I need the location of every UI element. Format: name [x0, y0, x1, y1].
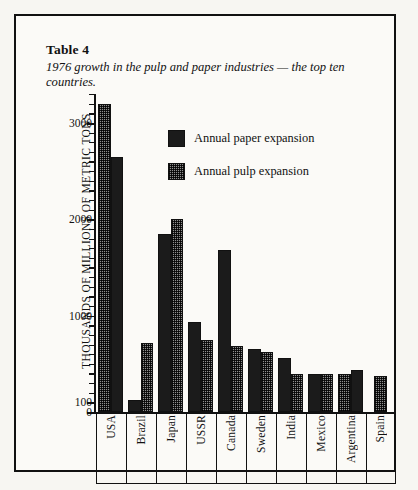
bar-chart: THOUSANDS OF MILLIONS OF METRIC TONS 300…: [38, 88, 406, 488]
bar-group: [186, 94, 216, 412]
y-tick: [89, 364, 94, 365]
y-tick: [89, 181, 94, 182]
bar-group: [126, 94, 156, 412]
bar-pulp-ussr: [201, 340, 213, 412]
bar-group: [366, 94, 396, 412]
bar-paper-mexico: [308, 374, 320, 412]
y-axis-title: THOUSANDS OF MILLIONS OF METRIC TONS: [80, 119, 92, 369]
y-tick: [89, 161, 94, 162]
y-tick: [89, 200, 94, 201]
y-tick: [89, 325, 94, 326]
bar-paper-usa: [111, 157, 123, 412]
y-tick: [89, 335, 94, 336]
y-tick: [89, 210, 94, 211]
table-number: Table 4: [46, 42, 396, 58]
x-axis-label-brazil: Brazil: [126, 412, 156, 483]
bar-paper-ussr: [188, 322, 200, 412]
bar-pulp-india: [291, 374, 303, 412]
screenshot-page: Table 4 1976 growth in the pulp and pape…: [0, 0, 418, 490]
y-tick: [89, 296, 94, 297]
plot-area: 3000200010001000: [94, 94, 394, 412]
bar-series-container: [96, 94, 394, 412]
bar-paper-japan: [158, 234, 170, 412]
y-tick: [89, 287, 94, 288]
y-tick: [89, 373, 94, 374]
y-tick: [89, 258, 94, 259]
y-tick: [89, 113, 94, 114]
y-tick: [89, 190, 94, 191]
table-caption: 1976 growth in the pulp and paper indust…: [46, 60, 391, 90]
bar-pulp-brazil: [141, 343, 153, 412]
y-tick: [89, 239, 94, 240]
bar-group: [246, 94, 276, 412]
y-tick: [89, 94, 94, 95]
y-tick: [89, 267, 94, 268]
x-axis-label-canada: Canada: [216, 412, 246, 483]
y-tick: [89, 277, 94, 278]
x-axis-label-argentina: Argentina: [336, 412, 366, 483]
bar-paper-brazil: [128, 400, 140, 412]
x-axis-label-ussr: USSR: [186, 412, 216, 483]
bar-pulp-argentina: [338, 374, 350, 412]
bar-pulp-japan: [171, 219, 183, 412]
bar-group: [336, 94, 366, 412]
y-tick-label: 0: [32, 406, 92, 418]
bar-paper-sweden: [248, 349, 260, 412]
x-axis-label-japan: Japan: [156, 412, 186, 483]
bar-group: [306, 94, 336, 412]
bar-pulp-canada: [231, 346, 243, 412]
y-tick-label: 2000: [32, 213, 92, 225]
bar-group: [156, 94, 186, 412]
y-tick: [89, 104, 94, 105]
y-tick: [89, 306, 94, 307]
bar-paper-canada: [218, 250, 230, 412]
bar-group: [276, 94, 306, 412]
x-axis-label-usa: USA: [96, 412, 126, 483]
bar-pulp-usa: [98, 104, 110, 412]
bar-pulp-mexico: [321, 374, 333, 412]
bar-paper-argentina: [351, 370, 363, 412]
y-tick: [89, 248, 94, 249]
x-axis-label-mexico: Mexico: [306, 412, 336, 483]
y-tick: [89, 229, 94, 230]
bar-pulp-sweden: [261, 352, 273, 412]
table-frame: Table 4 1976 growth in the pulp and pape…: [14, 14, 396, 472]
bar-group: [216, 94, 246, 412]
y-tick: [89, 383, 94, 384]
y-tick: [89, 345, 94, 346]
y-tick-label: 1000: [32, 310, 92, 322]
bar-group: [96, 94, 126, 412]
y-tick: [89, 171, 94, 172]
y-tick: [89, 152, 94, 153]
x-axis-labels: USABrazilJapanUSSRCanadaSwedenIndiaMexic…: [96, 412, 396, 484]
y-tick-label: 3000: [32, 117, 92, 129]
x-axis-label-sweden: Sweden: [246, 412, 276, 483]
x-axis-label-spain: Spain: [366, 412, 396, 483]
x-axis-label-india: India: [276, 412, 306, 483]
table-caption-block: Table 4 1976 growth in the pulp and pape…: [46, 42, 396, 90]
bar-pulp-spain: [374, 376, 386, 412]
bar-paper-india: [278, 358, 290, 412]
y-tick: [89, 142, 94, 143]
y-tick: [89, 354, 94, 355]
y-tick: [89, 393, 94, 394]
y-tick: [89, 133, 94, 134]
